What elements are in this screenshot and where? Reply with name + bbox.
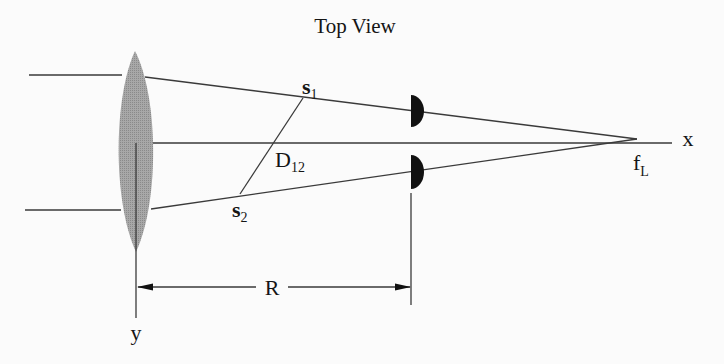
converging-ray-lower: [151, 139, 637, 209]
arrowhead-right-icon: [395, 284, 411, 291]
detector-lower-icon: [411, 155, 424, 189]
source2-label: s2: [232, 197, 248, 225]
converging-ray-upper: [145, 77, 637, 139]
separation-label: D12: [275, 147, 305, 175]
arrowhead-left-icon: [137, 284, 153, 291]
detector-upper-icon: [411, 95, 424, 127]
focal-point-label: fL: [633, 150, 649, 179]
y-axis-label: y: [131, 320, 142, 345]
top-view-diagram: Top View R x y fL s1 s2 D12: [0, 0, 724, 364]
diagram-title: Top View: [314, 14, 396, 38]
separation-line: [240, 98, 303, 194]
source1-label: s1: [302, 74, 318, 102]
distance-label: R: [265, 275, 280, 300]
x-axis-label: x: [683, 126, 694, 151]
